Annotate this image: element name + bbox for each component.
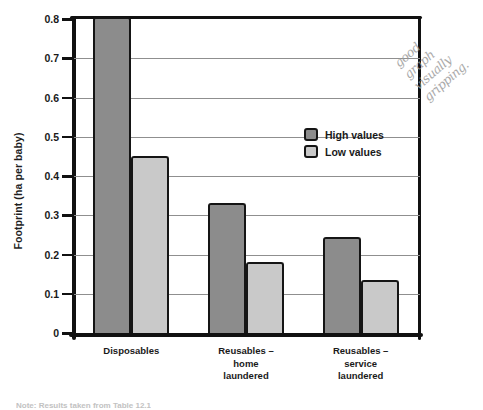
y-tick-label: 0.7: [44, 52, 59, 64]
y-tick-label: 0.3: [44, 209, 59, 221]
y-tick-mark: [62, 57, 72, 60]
y-tick-label: 0: [53, 327, 59, 339]
plot-area: 00.10.20.30.40.50.60.70.8 High valuesLow…: [72, 19, 420, 337]
y-tick-mark: [62, 332, 72, 335]
y-tick-mark: [62, 254, 72, 257]
x-category-label-line: home: [189, 358, 304, 371]
x-category-label-line: Reusables –: [189, 345, 304, 358]
legend-item: Low values: [304, 145, 384, 158]
x-category-label-line: laundered: [189, 370, 304, 383]
bar-chart-figure: Footprint (ha per baby) 00.10.20.30.40.5…: [0, 0, 483, 410]
bar: [361, 280, 399, 333]
y-tick-mark: [62, 18, 72, 21]
x-category-label-line: service: [303, 358, 418, 371]
source-note: Note: Results taken from Table 12.1: [16, 401, 151, 410]
y-tick-label: 0.4: [44, 170, 59, 182]
handwritten-line: gripping.: [421, 36, 483, 104]
y-tick-label: 0.5: [44, 131, 59, 143]
y-tick-label: 0.8: [44, 13, 59, 25]
bar: [131, 156, 169, 333]
x-category-label-line: Reusables –: [303, 345, 418, 358]
y-tick-mark: [62, 136, 72, 139]
y-tick-label: 0.6: [44, 92, 59, 104]
bar: [323, 237, 361, 333]
x-category-label: Reusables –servicelaundered: [303, 345, 418, 383]
y-tick-mark: [62, 214, 72, 217]
bar: [208, 203, 246, 333]
y-axis-title: Footprint (ha per baby): [6, 96, 30, 286]
legend: High valuesLow values: [304, 128, 384, 158]
legend-swatch: [304, 145, 318, 158]
bar: [93, 17, 131, 333]
x-category-label: Disposables: [74, 345, 189, 358]
y-tick-mark: [62, 97, 72, 100]
x-category-label-line: Disposables: [74, 345, 189, 358]
y-tick-mark: [62, 293, 72, 296]
legend-label: High values: [325, 129, 384, 141]
y-tick-label: 0.1: [44, 288, 59, 300]
bar: [246, 262, 284, 333]
x-axis-line: [69, 333, 423, 337]
y-tick-mark: [62, 175, 72, 178]
x-category-label: Reusables –homelaundered: [189, 345, 304, 383]
y-tick-label: 0.2: [44, 249, 59, 261]
y-axis-title-text: Footprint (ha per baby): [12, 132, 24, 249]
x-category-label-line: laundered: [303, 370, 418, 383]
legend-swatch: [304, 128, 318, 141]
handwritten-line: visually: [411, 25, 483, 93]
bars-layer: [74, 19, 420, 333]
legend-item: High values: [304, 128, 384, 141]
legend-label: Low values: [325, 146, 382, 158]
